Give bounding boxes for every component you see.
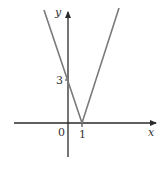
graph-canvas: y x 0 1 3 <box>0 0 164 169</box>
abs-value-curve <box>44 8 119 123</box>
origin-label: 0 <box>58 126 65 139</box>
x-tick-label-1: 1 <box>79 128 86 141</box>
y-axis-label: y <box>54 6 62 19</box>
x-axis-label: x <box>148 126 155 139</box>
y-tick-label-3: 3 <box>56 74 63 87</box>
